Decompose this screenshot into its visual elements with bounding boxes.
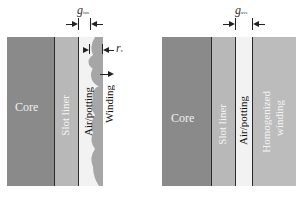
right-homogenized-label-line1: Homogenized <box>261 91 272 153</box>
left-gap-arrow-right-bar <box>97 24 103 25</box>
right-homogenized-label-line2: winding <box>274 100 285 136</box>
left-radius-symbol: rc <box>116 42 123 54</box>
right-panel: Core Slot liner Air/potting Homogenized … <box>150 0 299 199</box>
left-gap-tick-left <box>78 18 79 30</box>
left-winding-label: Winding <box>104 85 115 123</box>
left-air-potting-label: Air/potting <box>83 87 94 136</box>
left-core-label: Core <box>15 101 38 113</box>
right-gap-symbol: gave <box>235 4 248 16</box>
right-gap-tick-left <box>235 18 236 30</box>
right-slot-liner-label: Slot liner <box>217 104 228 145</box>
left-slot-liner-label: Slot liner <box>60 95 71 136</box>
left-radius-pointer-bar <box>100 74 108 75</box>
left-gap-symbol: gins <box>77 4 89 16</box>
left-radius-arrow-right-icon <box>83 47 89 53</box>
right-air-potting-label: Air/potting <box>238 96 249 145</box>
left-panel: Core Slot liner Air/potting Winding gins… <box>0 0 150 199</box>
right-gap-arrow-right-icon <box>229 21 235 27</box>
left-radius-arrow-bar <box>109 50 114 51</box>
right-core-label: Core <box>171 112 194 124</box>
right-gap-arrow-right-bar <box>259 24 265 25</box>
left-radius-tick-left <box>89 44 90 54</box>
left-gap-arrow-right-icon <box>72 21 78 27</box>
left-core-region <box>7 37 54 86</box>
left-radius-pointer-icon <box>108 71 114 77</box>
